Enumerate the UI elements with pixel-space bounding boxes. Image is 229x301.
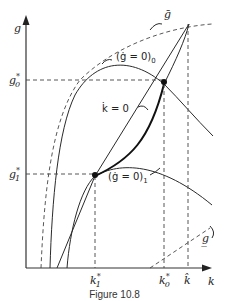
k-hat-label: k̂: [184, 273, 191, 287]
y-axis-arrow-icon: [23, 15, 30, 25]
g-dot-zero-1-label: (ġ = 0)1: [108, 171, 148, 185]
upper-branch-curve: [164, 24, 189, 84]
x-axis-arrow-icon: [202, 265, 212, 272]
g-bar-pointer: [150, 24, 162, 30]
g-dot-zero-0-label: (ġ = 0)0: [116, 51, 156, 65]
g-underbar-pointer: [210, 226, 214, 238]
equilibrium-e1: [92, 172, 98, 178]
g-bar-label: ḡ: [164, 8, 171, 21]
figure-caption: Figure 10.8: [0, 289, 229, 300]
g0-star-label: g*0: [9, 72, 20, 89]
g-underbar-label: g̲: [201, 232, 209, 247]
k1-star-label: k*1: [90, 272, 101, 289]
kdot-pointer: [138, 106, 148, 110]
y-axis-label: g: [14, 22, 21, 35]
k0-star-label: k*0: [159, 272, 170, 289]
g0-pointer: [102, 60, 112, 65]
g-underbar-curve: [150, 228, 210, 268]
saddle-path: [95, 84, 164, 176]
g1-star-label: g*1: [9, 166, 20, 183]
phase-diagram: g k g*0 g*1 k*1 k*0 k̂ ḡ (ġ = 0)0 k̇ = 0…: [0, 0, 229, 301]
x-axis-label: k: [208, 275, 215, 288]
equilibrium-e0: [161, 79, 167, 85]
g-dot-zero-1-curve: [67, 168, 212, 268]
g-dot-zero-0-curve: [50, 65, 213, 268]
k-dot-zero-label: k̇ = 0: [102, 102, 129, 114]
